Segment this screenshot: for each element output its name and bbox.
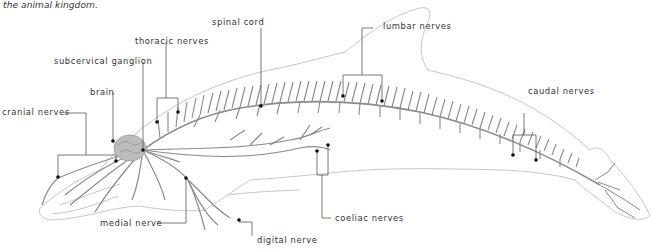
dolphin-outline — [39, 8, 650, 220]
dolphin-nervous-system-diagram — [0, 0, 653, 250]
label-spinal-cord: spinal cord — [212, 17, 264, 27]
label-lumbar-nerves: lumbar nerves — [383, 21, 452, 31]
label-brain: brain — [90, 87, 115, 97]
label-coeliac-nerves: coeliac nerves — [335, 213, 404, 223]
label-caudal-nerves: caudal nerves — [528, 86, 595, 96]
label-subcervical-ganglion: subcervical ganglion — [54, 56, 152, 66]
label-thoracic-nerves: thoracic nerves — [135, 36, 209, 46]
label-digital-nerve: digital nerve — [257, 235, 318, 245]
label-medial-nerve: medial nerve — [100, 218, 162, 228]
brain-illustration — [114, 135, 146, 161]
tail-nerves — [595, 163, 640, 218]
label-cranial-nerves: cranial nerves — [2, 107, 70, 117]
spinal-nerve-branches — [158, 81, 579, 167]
